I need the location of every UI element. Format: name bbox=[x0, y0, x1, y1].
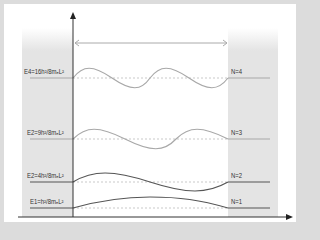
box-width-arrow bbox=[75, 40, 227, 46]
state-label-n4: N=4 bbox=[231, 68, 242, 76]
energy-label-n3: E2=9h²/8mₑL² bbox=[27, 129, 64, 137]
state-label-n1: N=1 bbox=[231, 198, 242, 206]
state-label-n3: N=3 bbox=[231, 129, 242, 137]
left-wall bbox=[22, 28, 73, 217]
energy-label-n1: E1=h²/8mₑL² bbox=[30, 198, 63, 206]
energy-label-n4: E4=16h²/8mₑL² bbox=[24, 68, 64, 76]
right-wall bbox=[228, 28, 278, 217]
state-label-n2: N=2 bbox=[231, 172, 242, 180]
energy-label-n2: E2=4h²/8mₑL² bbox=[27, 172, 64, 180]
